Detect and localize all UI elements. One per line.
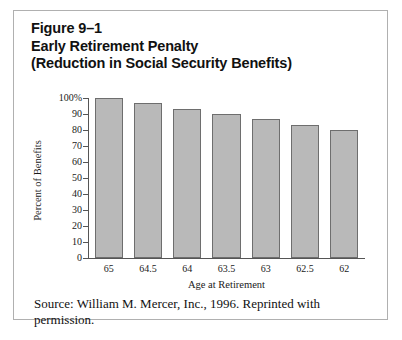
- bar: [330, 130, 358, 258]
- bar-chart: Percent of Benefits 01020304050607080901…: [14, 83, 389, 283]
- x-axis-tick-label: 64: [168, 263, 207, 274]
- x-axis-tick-label: 63.5: [207, 263, 246, 274]
- bar: [291, 125, 319, 258]
- figure-title-line-2: (Reduction in Social Security Benefits): [31, 55, 371, 73]
- plot-area: [89, 98, 364, 258]
- bar: [134, 103, 162, 258]
- y-axis-tick-label: 80: [72, 125, 82, 135]
- y-axis-tick-label: 30: [72, 205, 82, 215]
- source-note: Source: William M. Mercer, Inc., 1996. R…: [34, 296, 364, 328]
- x-axis-tick-label: 64.5: [128, 263, 167, 274]
- y-axis-title: Percent of Benefits: [32, 121, 43, 241]
- figure-number: Figure 9–1: [31, 20, 371, 38]
- x-axis-tick-label: 62.5: [285, 263, 324, 274]
- y-axis-line: [88, 98, 89, 259]
- x-axis-tick-labels: 6564.56463.56362.562: [89, 263, 364, 277]
- bar: [173, 109, 201, 258]
- bar: [212, 114, 240, 258]
- figure-title-line-1: Early Retirement Penalty: [31, 38, 371, 56]
- figure-frame: Figure 9–1 Early Retirement Penalty (Red…: [13, 10, 388, 320]
- x-axis-tick-label: 65: [89, 263, 128, 274]
- y-axis-tick-label: 20: [72, 221, 82, 231]
- y-axis-tick-label: 100%: [59, 93, 82, 103]
- x-axis-line: [88, 258, 365, 259]
- y-axis-tick-label: 0: [77, 253, 82, 263]
- bar: [95, 98, 123, 258]
- y-axis-tick-label: 90: [72, 109, 82, 119]
- y-axis-tick-label: 70: [72, 141, 82, 151]
- x-axis-tick-label: 62: [325, 263, 364, 274]
- y-axis-tick-label: 50: [72, 173, 82, 183]
- y-axis-tick-labels: 0102030405060708090100%: [54, 98, 82, 258]
- y-axis-tick-label: 40: [72, 189, 82, 199]
- figure-title-block: Figure 9–1 Early Retirement Penalty (Red…: [31, 20, 371, 73]
- x-axis-title: Age at Retirement: [89, 279, 364, 290]
- y-axis-tick-label: 60: [72, 157, 82, 167]
- y-axis-tick-label: 10: [72, 237, 82, 247]
- bar: [252, 119, 280, 258]
- x-axis-tick-label: 63: [246, 263, 285, 274]
